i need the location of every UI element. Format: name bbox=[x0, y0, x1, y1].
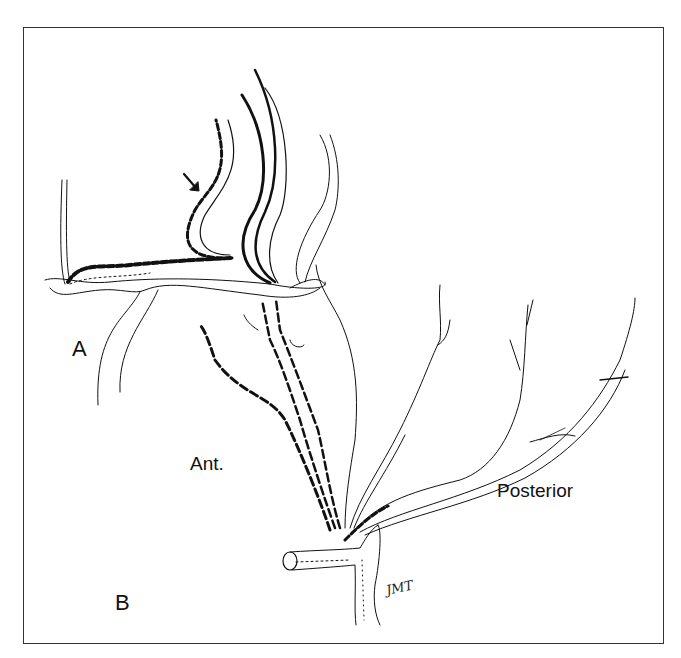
panel-label-a: A bbox=[72, 336, 87, 362]
panel-b-drawing bbox=[200, 265, 635, 625]
posterior-label: Posterior bbox=[497, 480, 573, 502]
panel-label-b: B bbox=[115, 590, 130, 616]
arrow-down-right-icon bbox=[184, 174, 199, 191]
panel-a-drawing bbox=[45, 70, 338, 405]
vessel-illustration bbox=[0, 0, 681, 658]
anterior-label: Ant. bbox=[190, 453, 224, 475]
